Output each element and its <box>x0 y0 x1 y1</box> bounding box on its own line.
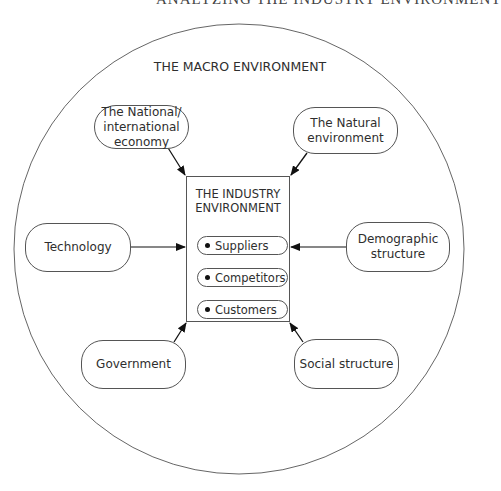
industry-item-competitors: Competitors <box>197 268 288 287</box>
macro-environment-title: THE MACRO ENVIRONMENT <box>150 59 330 74</box>
government-label: Government <box>96 357 171 372</box>
industry-item-label: Suppliers <box>215 239 268 253</box>
arrow-government <box>174 323 186 342</box>
economy-line2: international <box>103 120 179 135</box>
industry-title-line2: ENVIRONMENT <box>187 201 289 215</box>
industry-item-label: Customers <box>215 303 277 317</box>
factor-government: Government <box>81 340 186 389</box>
factor-natural: The Natural environment <box>293 107 398 154</box>
social-label: Social structure <box>300 357 394 372</box>
bullet-icon <box>205 243 210 248</box>
technology-label: Technology <box>44 240 111 255</box>
industry-environment-box: THE INDUSTRY ENVIRONMENT Suppliers Compe… <box>186 176 290 322</box>
bullet-icon <box>205 275 210 280</box>
economy-line3: economy <box>114 135 169 150</box>
industry-title-line1: THE INDUSTRY <box>187 187 289 201</box>
factor-social: Social structure <box>294 339 399 389</box>
factor-economy: The National/ international economy <box>94 105 189 149</box>
arrow-social <box>290 323 303 342</box>
industry-title: THE INDUSTRY ENVIRONMENT <box>187 187 289 215</box>
factor-technology: Technology <box>25 223 131 272</box>
natural-line2: environment <box>307 131 383 146</box>
economy-line1: The National/ <box>101 105 181 120</box>
demographic-line1: Demographic <box>358 232 439 247</box>
bullet-icon <box>205 307 210 312</box>
industry-item-suppliers: Suppliers <box>197 236 288 255</box>
industry-item-customers: Customers <box>197 300 288 319</box>
arrow-natural <box>291 153 307 175</box>
demographic-line2: structure <box>371 247 425 262</box>
industry-item-label: Competitors <box>215 271 286 285</box>
factor-demographic: Demographic structure <box>346 222 450 272</box>
natural-line1: The Natural <box>310 116 380 131</box>
